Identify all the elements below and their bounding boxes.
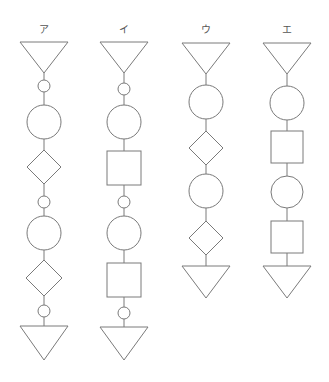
triangle-symbol xyxy=(182,43,230,74)
column-label-i: イ xyxy=(119,24,129,35)
column-e-shapes xyxy=(263,43,311,298)
small-circle-symbol xyxy=(38,305,50,317)
large-circle-symbol xyxy=(107,216,141,250)
square-symbol xyxy=(271,131,303,163)
large-circle-symbol xyxy=(271,176,303,208)
small-circle-symbol xyxy=(118,196,130,208)
small-circle-symbol xyxy=(118,83,130,95)
large-circle-symbol xyxy=(27,105,61,139)
triangle-symbol xyxy=(263,43,311,74)
large-circle-symbol xyxy=(270,86,304,120)
diamond-symbol xyxy=(189,221,223,255)
column-label-u: ウ xyxy=(201,24,211,35)
square-symbol xyxy=(107,151,141,185)
diamond-symbol xyxy=(26,260,62,296)
column-u-shapes xyxy=(182,43,230,298)
large-circle-symbol xyxy=(189,85,223,119)
column-i: イ xyxy=(100,24,148,360)
column-u: ウ xyxy=(182,24,230,298)
small-circle-symbol xyxy=(38,196,50,208)
square-symbol xyxy=(271,221,303,253)
flow-symbol-diagram: ア イ ウ エ xyxy=(0,0,329,382)
large-circle-symbol xyxy=(189,174,223,208)
triangle-symbol xyxy=(20,326,68,360)
triangle-symbol xyxy=(100,327,148,360)
triangle-symbol xyxy=(100,42,148,73)
column-e: エ xyxy=(263,24,311,298)
square-symbol xyxy=(107,263,141,297)
diamond-symbol xyxy=(27,150,61,184)
triangle-symbol xyxy=(20,42,68,73)
column-a: ア xyxy=(20,24,68,360)
column-i-shapes xyxy=(100,42,148,360)
diamond-symbol xyxy=(189,131,223,165)
triangle-symbol xyxy=(182,266,230,298)
large-circle-symbol xyxy=(27,216,61,250)
column-label-e: エ xyxy=(282,24,292,35)
column-a-shapes xyxy=(20,42,68,360)
large-circle-symbol xyxy=(107,105,141,139)
small-circle-symbol xyxy=(118,307,130,319)
triangle-symbol xyxy=(263,266,311,298)
column-label-a: ア xyxy=(39,24,49,35)
small-circle-symbol xyxy=(38,80,50,92)
